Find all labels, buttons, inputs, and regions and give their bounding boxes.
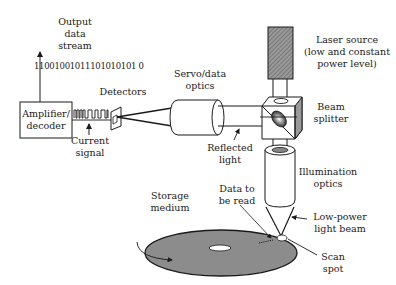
output-data-stream-label: Output data stream: [55, 16, 95, 52]
converging-beam: [117, 108, 172, 126]
low-power-beam-label: Low-power light beam: [311, 211, 369, 235]
illumination-optics: [265, 145, 295, 207]
detectors-label: Detectors: [98, 86, 148, 98]
laser-source: [268, 27, 293, 79]
optical-reading-diagram: Output data stream 11001001011101010101 …: [0, 0, 396, 285]
light-beam-cone: [266, 207, 294, 236]
beam-splitter: [260, 97, 302, 148]
current-signal-waveform: [72, 110, 112, 120]
low-power-beam-pointer: [292, 217, 307, 219]
data-to-be-read-label: Data to be read: [216, 183, 258, 207]
scan-spot-label: Scan spot: [316, 251, 350, 275]
laser-source-label: Laser source (low and constant power lev…: [304, 34, 390, 70]
storage-medium-label: Storage medium: [148, 190, 192, 214]
beam-splitter-label: Beam splitter: [308, 101, 354, 125]
illumination-optics-label: Illumination optics: [298, 166, 358, 190]
amplifier-decoder-label: Amplifier/ decoder: [20, 108, 72, 132]
bit-stream-label: 11001001011101010101 0: [34, 60, 144, 72]
current-signal-label: Current signal: [68, 135, 112, 159]
storage-medium-disk: [145, 230, 297, 276]
servo-data-optics: [170, 100, 224, 135]
reflected-light-arrow: [234, 129, 239, 140]
reflected-light-label: Reflected light: [206, 142, 254, 166]
parallel-beams: [218, 106, 268, 126]
servo-data-optics-label: Servo/data optics: [172, 68, 228, 92]
scan-spot-marker: [277, 235, 287, 241]
